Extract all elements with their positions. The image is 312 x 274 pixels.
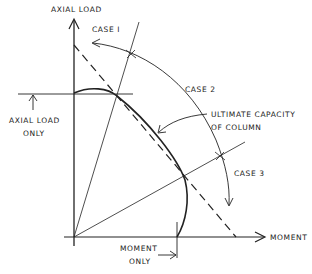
case1-label: CASE I [92, 25, 120, 34]
y-axis [69, 19, 79, 246]
ultimate-capacity-label-line2: OF COLUMN [211, 123, 262, 132]
x-axis [64, 232, 265, 242]
x-axis-label: MOMENT [270, 233, 307, 242]
moment-only-label-line1: MOMENT [120, 244, 157, 253]
case2-label: CASE 2 [185, 85, 216, 94]
axial-load-only-label-line1: AXIAL LOAD [9, 116, 60, 125]
moment-only-label-line2: ONLY [129, 257, 151, 266]
case-arc [93, 43, 229, 205]
case1-load-line [74, 22, 139, 237]
ultimate-capacity-label-line1: ULTIMATE CAPACITY [211, 110, 295, 119]
axial-load-only-arrow-icon [29, 95, 37, 110]
ultimate-capacity-curve [74, 89, 187, 237]
interaction-diagram: AXIAL LOAD MOMENT CASE I CASE 2 CASE 3 U… [0, 0, 312, 274]
ultimate-capacity-pointer [159, 114, 207, 132]
moment-only-arrow-icon [158, 251, 176, 259]
case3-label: CASE 3 [234, 169, 265, 178]
case3-intersection-mark [215, 152, 225, 160]
y-axis-label: AXIAL LOAD [51, 5, 102, 14]
dashed-linear-line [74, 45, 236, 237]
axial-load-only-label-line2: ONLY [23, 129, 45, 138]
